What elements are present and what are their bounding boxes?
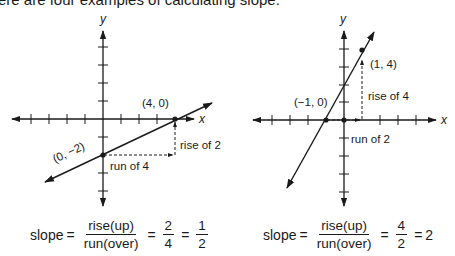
equals-sign: = — [414, 227, 422, 243]
rise-over-run-fraction: rise(up) run(over) — [315, 218, 374, 251]
left-run-label: run of 4 — [110, 160, 150, 172]
left-point-0-neg2 — [100, 152, 105, 157]
right-point-label-1-4: (1, 4) — [370, 58, 397, 70]
right-point-label-neg1-0: (−1, 0) — [294, 96, 328, 108]
value-fraction: 2 4 — [163, 218, 175, 251]
equals-sign: = — [147, 227, 155, 243]
right-y-axis-label: y — [339, 12, 347, 26]
fraction-numerator: 2 — [163, 218, 175, 235]
equals-sign: = — [66, 227, 74, 243]
right-run-label: run of 2 — [351, 133, 390, 145]
slope-result: 2 — [425, 227, 433, 243]
fraction-denominator: 4 — [163, 235, 175, 251]
simplified-fraction: 1 2 — [196, 218, 208, 251]
equals-sign: = — [380, 227, 388, 243]
left-point-label-0-neg2: (0, −2) — [51, 140, 87, 165]
rise-over-run-fraction: rise(up) run(over) — [82, 218, 141, 251]
right-graph-line — [287, 32, 374, 188]
left-x-axis-label: x — [198, 112, 206, 126]
fraction-denominator: run(over) — [82, 235, 141, 251]
equals-sign: = — [299, 227, 307, 243]
fraction-numerator: rise(up) — [319, 218, 369, 235]
right-slope-formula: slope = rise(up) run(over) = 4 2 = 2 — [263, 218, 433, 251]
fraction-denominator: 2 — [396, 235, 408, 251]
left-y-axis-label: y — [99, 12, 107, 26]
left-graph — [12, 31, 212, 206]
value-fraction: 4 2 — [396, 218, 408, 251]
fraction-numerator: 1 — [196, 218, 208, 235]
left-rise-label: rise of 2 — [180, 139, 221, 151]
right-rise-label: rise of 4 — [368, 90, 410, 102]
right-point-origin — [341, 117, 346, 122]
right-point-1-4 — [359, 47, 364, 52]
fraction-numerator: 4 — [396, 218, 408, 235]
right-formula-prefix: slope — [263, 227, 296, 243]
fraction-numerator: rise(up) — [86, 218, 136, 235]
left-slope-formula: slope = rise(up) run(over) = 2 4 = 1 2 — [30, 218, 212, 251]
right-point-neg1-0 — [323, 117, 328, 122]
equals-sign: = — [181, 227, 189, 243]
fraction-denominator: run(over) — [315, 235, 374, 251]
left-point-4-0 — [172, 116, 177, 121]
left-formula-prefix: slope — [30, 227, 63, 243]
right-x-axis-label: x — [440, 113, 448, 127]
left-point-label-4-0: (4, 0) — [142, 97, 169, 109]
fraction-denominator: 2 — [196, 235, 208, 251]
